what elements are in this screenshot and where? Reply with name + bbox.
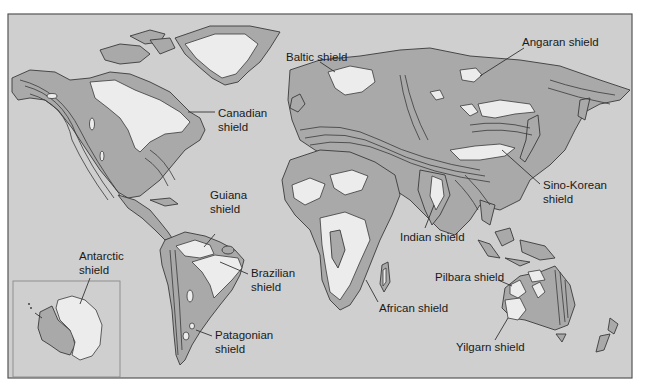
label-pilbara-shield: Pilbara shield bbox=[435, 271, 504, 283]
label-guiana-shield: Guiana bbox=[210, 189, 248, 201]
svg-text:shield: shield bbox=[543, 193, 573, 205]
label-indian-shield: Indian shield bbox=[400, 231, 465, 243]
label-baltic-shield: Baltic shield bbox=[286, 51, 347, 63]
label-angaran-shield: Angaran shield bbox=[522, 36, 599, 48]
label-brazilian-shield: Brazilian bbox=[251, 267, 295, 279]
label-african-shield: African shield bbox=[379, 302, 448, 314]
label-sino-korean-shield: Sino-Korean bbox=[543, 179, 607, 191]
antarctica-inset bbox=[13, 281, 120, 377]
svg-text:shield: shield bbox=[218, 121, 248, 133]
label-antarctic-shield: Antarctic bbox=[79, 250, 124, 262]
svg-text:shield: shield bbox=[210, 203, 240, 215]
svg-text:shield: shield bbox=[79, 264, 109, 276]
label-canadian-shield: Canadian bbox=[218, 107, 267, 119]
label-yilgarn-shield: Yilgarn shield bbox=[456, 341, 525, 353]
label-patagonian-shield: Patagonian bbox=[215, 329, 273, 341]
world-shields-map: Canadian shield Baltic shield Angaran sh… bbox=[0, 0, 648, 390]
svg-text:shield: shield bbox=[215, 343, 245, 355]
svg-text:shield: shield bbox=[251, 281, 281, 293]
